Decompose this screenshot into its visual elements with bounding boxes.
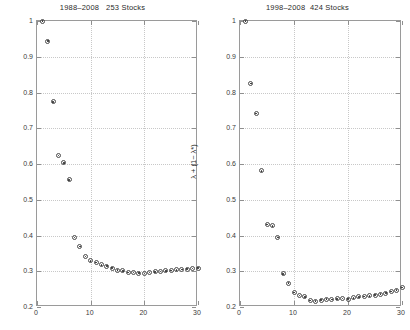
y-axis-tick-label: 0.6 [205, 160, 236, 167]
x-axis-tick-label: 10 [86, 309, 94, 316]
gridline-horizontal [240, 164, 400, 165]
y-axis-tick-label: 0.7 [0, 124, 33, 131]
gridline-horizontal [240, 236, 400, 237]
y-axis-tick-label: 0.8 [0, 88, 33, 95]
figure-canvas: 1988–2008 253 Stocks λ + (1− λ*) 0.20.30… [0, 0, 410, 330]
y-axis-tick [396, 93, 400, 94]
data-point-dot [181, 269, 183, 271]
y-axis-tick-label: 0.6 [0, 160, 33, 167]
y-axis-tick [37, 128, 41, 129]
x-axis-tick [240, 21, 241, 25]
data-point-dot [358, 296, 360, 298]
y-axis-tick-label: 0.5 [205, 195, 236, 202]
gridline-horizontal [37, 128, 196, 129]
x-axis-tick [144, 301, 145, 305]
data-point-dot [47, 40, 49, 42]
y-axis-tick [192, 307, 196, 308]
data-point-dot [272, 225, 274, 227]
chart-title-right: 1998–2008 424 Stocks [205, 3, 410, 12]
data-point-dot [385, 292, 387, 294]
x-axis-tick-label: 30 [193, 309, 201, 316]
data-point-dot [320, 299, 322, 301]
y-axis-tick-label: 0.4 [205, 231, 236, 238]
y-axis-tick [396, 128, 400, 129]
y-axis-tick [396, 236, 400, 237]
y-axis-tick-label: 0.9 [0, 52, 33, 59]
y-axis-tick-label: 0.9 [205, 52, 236, 59]
data-point-dot [68, 179, 70, 181]
data-point-dot [347, 298, 349, 300]
y-axis-tick [240, 93, 244, 94]
data-point-dot [165, 270, 167, 272]
y-axis-tick [396, 200, 400, 201]
data-point-dot [374, 294, 376, 296]
x-axis-tick-label: 20 [343, 309, 351, 316]
data-point-dot [122, 270, 124, 272]
y-axis-label-right: λ + (1− λ*) [189, 19, 198, 305]
data-point-dot [326, 298, 328, 300]
gridline-horizontal [240, 271, 400, 272]
y-axis-tick [37, 93, 41, 94]
chart-title-left: 1988–2008 253 Stocks [0, 3, 205, 12]
y-axis-tick [37, 57, 41, 58]
y-axis-tick-label: 0.3 [205, 267, 236, 274]
y-axis-tick-label: 1 [205, 17, 236, 24]
gridline-horizontal [240, 128, 400, 129]
x-axis-tick-label: 0 [34, 309, 38, 316]
data-point-dot [138, 272, 140, 274]
gridline-horizontal [37, 200, 196, 201]
data-point-dot [245, 20, 247, 22]
data-point-dot [380, 293, 382, 295]
y-axis-tick [396, 164, 400, 165]
y-axis-tick [37, 307, 41, 308]
y-axis-tick [396, 21, 400, 22]
gridline-horizontal [240, 93, 400, 94]
gridline-horizontal [37, 236, 196, 237]
y-axis-tick-label: 0.2 [205, 303, 236, 310]
y-axis-tick [396, 271, 400, 272]
gridline-horizontal [37, 57, 196, 58]
data-point-dot [127, 272, 129, 274]
y-axis-tick [240, 164, 244, 165]
y-axis-tick [240, 128, 244, 129]
y-axis-tick [37, 200, 41, 201]
y-axis-tick [37, 236, 41, 237]
data-point-dot [293, 292, 295, 294]
x-axis-tick [294, 21, 295, 25]
data-point-dot [63, 162, 65, 164]
y-axis-tick [240, 307, 244, 308]
x-axis-tick [240, 301, 241, 305]
x-axis-tick [91, 301, 92, 305]
data-point-dot [336, 298, 338, 300]
y-axis-tick [240, 236, 244, 237]
y-axis-tick-label: 0.5 [0, 195, 33, 202]
y-axis-tick [396, 307, 400, 308]
x-axis-tick [37, 301, 38, 305]
plot-area-left [36, 20, 197, 306]
plot-area-right [239, 20, 401, 306]
x-axis-tick [294, 301, 295, 305]
x-axis-tick [198, 301, 199, 305]
y-axis-tick-label: 0.2 [0, 303, 33, 310]
y-axis-tick-label: 0.8 [205, 88, 236, 95]
data-point-dot [101, 264, 103, 266]
x-axis-tick-label: 20 [139, 309, 147, 316]
data-point-dot [154, 271, 156, 273]
gridline-vertical [294, 21, 295, 305]
y-axis-tick [240, 200, 244, 201]
gridline-vertical [144, 21, 145, 305]
y-axis-tick [37, 164, 41, 165]
chart-panel-left: 1988–2008 253 Stocks λ + (1− λ*) 0.20.30… [0, 0, 205, 330]
x-axis-tick [91, 21, 92, 25]
x-axis-tick-label: 0 [237, 309, 241, 316]
data-point-dot [282, 273, 284, 275]
y-axis-tick-label: 0.7 [205, 124, 236, 131]
y-axis-tick [37, 271, 41, 272]
data-point-dot [52, 101, 54, 103]
x-axis-tick-label: 10 [289, 309, 297, 316]
gridline-horizontal [37, 93, 196, 94]
y-axis-tick [240, 57, 244, 58]
gridline-horizontal [240, 57, 400, 58]
y-axis-tick [396, 57, 400, 58]
x-axis-tick-label: 30 [397, 309, 405, 316]
